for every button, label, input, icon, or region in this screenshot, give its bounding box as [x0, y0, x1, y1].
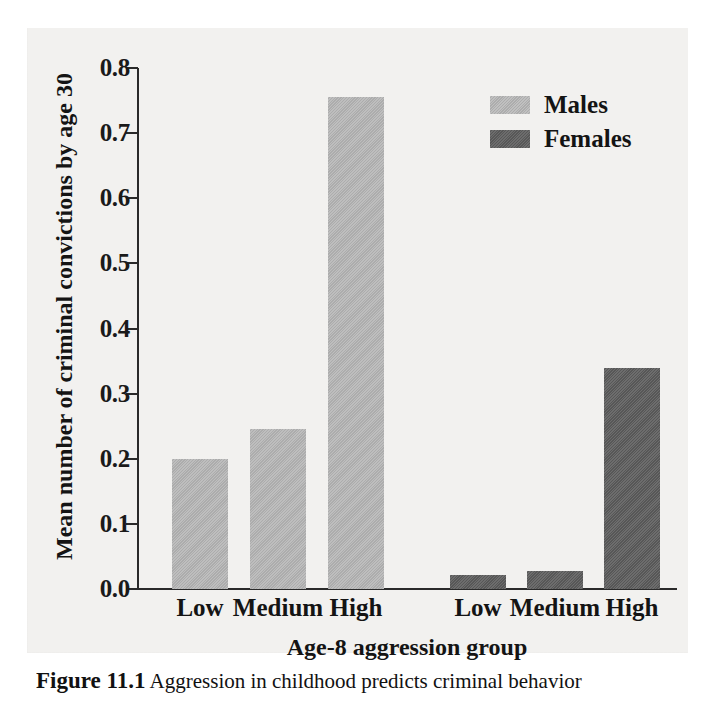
y-axis-tick-label: 0.4: [100, 315, 130, 343]
y-axis-title: Mean number of criminal convictions by a…: [51, 57, 78, 577]
y-axis-tick-label: 0.1: [100, 510, 130, 538]
x-axis-label-males-high: High: [306, 594, 406, 622]
y-axis-tick-label: 0.5: [100, 249, 130, 277]
legend-swatch-males: [490, 96, 530, 114]
bar-chart-plot-area: 0.80.70.60.50.40.30.20.10.0 LowMediumHig…: [27, 28, 688, 653]
y-axis-tick-label: 0.3: [100, 380, 130, 408]
legend-item-males: Males: [490, 88, 631, 122]
x-axis-title: Age-8 aggression group: [137, 634, 677, 661]
bar-females-high: [604, 368, 660, 589]
bar-males-high: [328, 97, 384, 589]
bar-males-low: [172, 459, 228, 589]
y-axis-tick-label: 0.8: [100, 54, 130, 82]
legend-label-females: Females: [544, 125, 631, 153]
legend-swatch-females: [490, 130, 530, 148]
figure-caption-label: Figure 11.1: [36, 668, 145, 693]
figure-caption: Figure 11.1 Aggression in childhood pred…: [36, 668, 696, 694]
figure-panel: 0.80.70.60.50.40.30.20.10.0 LowMediumHig…: [27, 28, 688, 653]
y-axis-tick-label: 0.2: [100, 445, 130, 473]
bar-females-medium: [527, 571, 583, 589]
y-axis-tick-label: 0.0: [100, 575, 130, 603]
bar-females-low: [450, 575, 506, 589]
y-axis-tick-label: 0.6: [100, 184, 130, 212]
legend-item-females: Females: [490, 122, 631, 156]
chart-legend: MalesFemales: [490, 88, 631, 156]
figure-caption-body: Aggression in childhood predicts crimina…: [145, 669, 581, 693]
bar-males-medium: [250, 429, 306, 589]
legend-label-males: Males: [544, 91, 608, 119]
y-axis-tick-label: 0.7: [100, 119, 130, 147]
x-axis-label-females-high: High: [582, 594, 682, 622]
